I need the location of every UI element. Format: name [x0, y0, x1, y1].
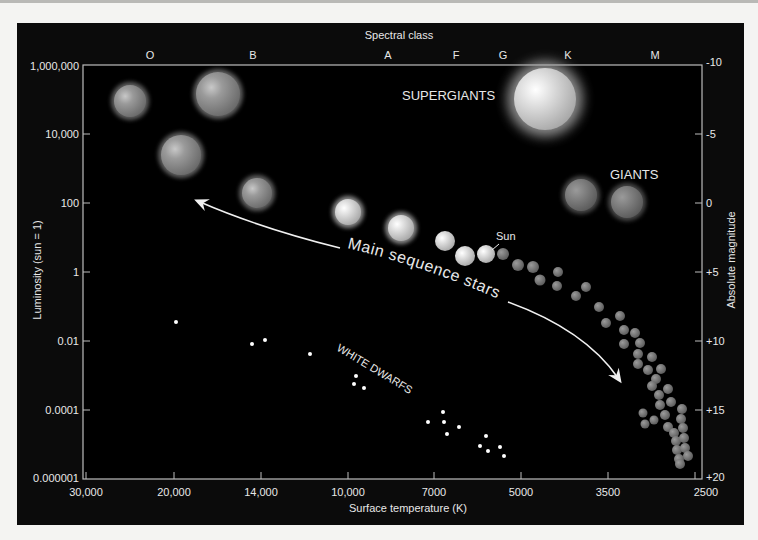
- star: [611, 186, 643, 218]
- y2-tick-label: +5: [706, 266, 719, 278]
- spectral-class-a: A: [384, 49, 392, 61]
- y2-tick-label: +15: [706, 404, 725, 416]
- x-tick-label: 5000: [509, 486, 533, 498]
- sun-label: Sun: [496, 230, 516, 242]
- star: [514, 68, 576, 130]
- spectral-class-f: F: [453, 49, 460, 61]
- star: [435, 231, 455, 251]
- y2-tick-label: +10: [706, 335, 725, 347]
- spectral-class-m: M: [650, 49, 659, 61]
- y-tick-label: 0.0001: [45, 404, 79, 416]
- x-tick-label: 10,000: [331, 486, 365, 498]
- star: [114, 85, 146, 117]
- star: [455, 246, 475, 266]
- y-tick-label: 100: [61, 197, 79, 209]
- star: [161, 135, 201, 175]
- spectral-class-b: B: [249, 49, 256, 61]
- star: [335, 199, 361, 225]
- spectral-class-g: G: [499, 49, 508, 61]
- y2-tick-label: -10: [706, 56, 722, 68]
- x-tick-label: 20,000: [157, 486, 191, 498]
- star: [388, 215, 414, 241]
- y-tick-label: 10,000: [45, 128, 79, 140]
- x-axis-title: Surface temperature (K): [349, 502, 467, 514]
- x-tick-label: 7000: [422, 486, 446, 498]
- y2-tick-label: 0: [706, 197, 712, 209]
- y-tick-label: 0.01: [58, 335, 79, 347]
- spectral-class-labels: O B A F G K M: [146, 49, 660, 61]
- giants-label: GIANTS: [610, 167, 659, 182]
- spectral-class-k: K: [564, 49, 572, 61]
- y2-tick-label: -5: [706, 128, 716, 140]
- x-tick-label: 14,000: [244, 486, 278, 498]
- y2-axis-title: Absolute magnitude: [725, 211, 737, 308]
- sun-star: [477, 245, 495, 263]
- y-tick-label: 1: [73, 266, 79, 278]
- y-tick-label: 0.000001: [33, 472, 79, 484]
- y-axis-title: Luminosity (sun = 1): [31, 220, 43, 319]
- star: [565, 179, 597, 211]
- supergiants-label: SUPERGIANTS: [402, 88, 496, 103]
- y-tick-label: 1,000,000: [30, 60, 79, 72]
- x-tick-label: 30,000: [69, 486, 103, 498]
- plot-frame: [83, 65, 702, 479]
- y2-tick-label: +20: [706, 471, 725, 483]
- x-tick-label: 2500: [694, 486, 718, 498]
- spectral-class-title: Spectral class: [365, 29, 434, 41]
- x-tick-label: 3500: [596, 486, 620, 498]
- star: [242, 178, 272, 208]
- hr-diagram: Spectral class O B A F G K M 1,000,000 1…: [0, 0, 758, 540]
- spectral-class-o: O: [146, 49, 155, 61]
- star: [196, 72, 240, 116]
